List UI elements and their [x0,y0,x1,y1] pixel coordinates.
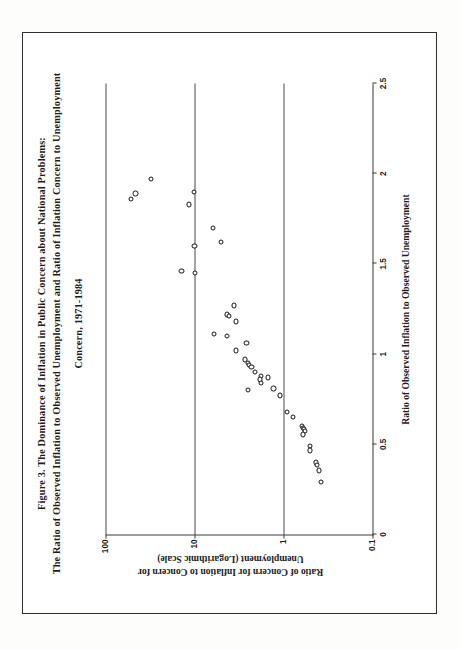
data-point [132,190,137,195]
x-tick-label: 2.5 [378,77,387,88]
x-tick-mark [372,353,376,354]
plot-area: 0.111010000.511.522.5 [105,83,373,535]
figure-title: Figure 3. The Dominance of Inflation in … [33,37,85,609]
data-point [233,347,238,352]
data-point [192,270,197,275]
y-axis-label-line-2: Unemployment (Logarithmic Scale) [90,552,370,565]
x-tick-mark [372,533,376,534]
x-tick-label: 0.5 [378,438,387,449]
x-tick-label: 0 [378,532,387,537]
title-line-1: Figure 3. The Dominance of Inflation in … [33,37,48,609]
data-point [128,196,133,201]
data-point [307,447,312,452]
data-point [318,479,323,484]
x-tick-mark [372,443,376,444]
figure: Figure 3. The Dominance of Inflation in … [27,37,432,609]
data-point [226,313,231,318]
data-point [148,176,153,181]
data-point [245,387,250,392]
data-point [277,392,282,397]
data-point [270,385,275,390]
data-point [290,414,295,419]
data-point [191,189,196,194]
y-axis-label: Ratio of Concern for Inflation to Concer… [90,552,370,578]
data-point [231,302,236,307]
y-gridline [283,83,284,534]
y-tick-mark [105,534,106,538]
data-point [300,431,305,436]
y-tick-mark [283,534,284,538]
title-line-2: The Ratio of Observed Inflation to Obser… [48,37,63,609]
x-tick-mark [372,262,376,263]
x-tick-mark [372,172,376,173]
scanned-page: Figure 3. The Dominance of Inflation in … [0,0,460,650]
data-point [284,409,289,414]
data-point [186,201,191,206]
data-point [258,380,263,385]
y-tick-mark [194,534,195,538]
rotated-figure-wrapper: Figure 3. The Dominance of Inflation in … [27,37,432,609]
data-point [314,462,319,467]
y-gridline [105,83,106,534]
data-point [191,243,196,248]
data-point [252,369,257,374]
scan-frame-border: Figure 3. The Dominance of Inflation in … [22,32,437,614]
data-point [316,467,321,472]
x-tick-label: 1.5 [378,258,387,269]
data-point [265,374,270,379]
title-line-3: Concern, 1971-1984 [70,37,85,609]
data-point [210,225,215,230]
data-point [178,268,183,273]
data-point [248,364,253,369]
data-point [211,331,216,336]
y-tick-mark [372,534,373,538]
x-tick-label: 2 [378,171,387,176]
data-point [243,340,248,345]
y-axis-label-line-1: Ratio of Concern for Inflation to Concer… [90,565,370,578]
data-point [224,333,229,338]
y-gridline [194,83,195,534]
x-tick-label: 1 [378,351,387,356]
x-axis-label: Ratio of Observed Inflation to Observed … [399,83,410,535]
data-point [218,239,223,244]
data-point [233,318,238,323]
x-tick-mark [372,82,376,83]
